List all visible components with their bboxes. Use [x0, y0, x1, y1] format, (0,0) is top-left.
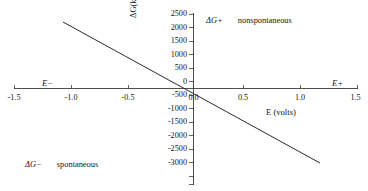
x-tick-label-1-0: 1.0 — [286, 94, 314, 102]
x-tick-label-neg1-0: -1.0 — [57, 94, 85, 102]
axis-label-e-minus: E− — [42, 78, 53, 88]
annotation-nonspontaneous-symbol: ΔG+ — [206, 16, 223, 25]
annotation-spontaneous-symbol: ΔG− — [25, 160, 42, 169]
x-tick-label-neg0-5: -0.5 — [114, 94, 142, 102]
annotation-spontaneous-text: spontaneous — [57, 160, 98, 169]
x-tick-label-1-5: 1.5 — [343, 94, 368, 102]
y-tick-label-neg2500: -2500 — [155, 145, 187, 153]
annotation-nonspontaneous-text: nonspontaneous — [238, 16, 292, 25]
x-tick-label-0-0: 0.0 — [183, 94, 204, 102]
x-tick-label-neg1-5: -1.5 — [0, 94, 28, 102]
y-tick-label-0: 0 — [155, 78, 187, 86]
y-tick-label-2000: 2000 — [155, 24, 187, 32]
x-tick-label-0-5: 0.5 — [229, 94, 257, 102]
y-axis-title: ΔG(kJ/mol) — [129, 0, 138, 18]
y-tick-label-500: 500 — [155, 64, 187, 72]
annotation-spontaneous: ΔG− spontaneous — [25, 160, 98, 169]
y-tick-label-2500: 2500 — [155, 10, 187, 18]
chart-figure: ΔG as a Function of Cell Potential — [0, 0, 368, 191]
x-axis-title: E (volts) — [266, 107, 296, 117]
axis-label-e-plus: E+ — [332, 78, 343, 88]
y-tick-label-neg1000: -1000 — [155, 105, 187, 113]
y-tick-label-1500: 1500 — [155, 37, 187, 45]
annotation-nonspontaneous: ΔG+ nonspontaneous — [206, 16, 292, 25]
y-tick-label-neg1500: -1500 — [155, 118, 187, 126]
y-tick-label-1000: 1000 — [155, 51, 187, 59]
y-tick-label-neg3000-upper: -3000 — [155, 159, 187, 167]
y-tick-label-neg2000: -2000 — [155, 132, 187, 140]
